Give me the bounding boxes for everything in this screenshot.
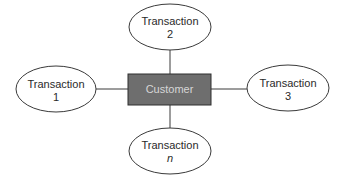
- transaction-n-label: Transaction: [141, 139, 198, 151]
- transaction-2-number: 2: [167, 28, 173, 40]
- transaction-n-number: n: [167, 152, 173, 164]
- transaction-n-node: Transaction n: [129, 128, 211, 174]
- customer-transaction-diagram: Customer Transaction 2 Transaction 1 Tra…: [0, 0, 355, 177]
- transaction-2-label: Transaction: [141, 15, 198, 27]
- transaction-1-node: Transaction 1: [16, 66, 96, 112]
- transaction-3-number: 3: [285, 90, 291, 102]
- transaction-n-ellipse: [129, 128, 211, 174]
- transaction-2-node: Transaction 2: [129, 4, 211, 50]
- customer-entity: Customer: [128, 74, 211, 105]
- transaction-3-label: Transaction: [259, 77, 316, 89]
- transaction-1-number: 1: [53, 91, 59, 103]
- transaction-2-ellipse: [129, 4, 211, 50]
- customer-label: Customer: [146, 83, 194, 95]
- transaction-3-node: Transaction 3: [247, 65, 329, 111]
- transaction-1-label: Transaction: [27, 78, 84, 90]
